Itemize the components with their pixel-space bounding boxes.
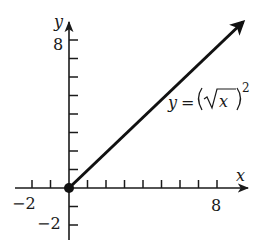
right-paren (237, 88, 241, 110)
y-axis-ticks (69, 40, 78, 225)
start-point-marker (64, 183, 74, 193)
y-tick-label-neg2: −2 (37, 214, 61, 233)
curve-line (69, 22, 243, 188)
graph-figure: x y −2 8 8 −2 y = x 2 (0, 0, 265, 250)
x-axis-label: x (236, 166, 245, 185)
equation-label: y = x 2 (167, 81, 250, 112)
x-axis-ticks (32, 180, 217, 188)
left-paren (199, 88, 203, 110)
y-tick-label-8: 8 (53, 35, 63, 54)
y-axis-label: y (53, 12, 64, 31)
x-tick-label-8: 8 (211, 196, 221, 215)
x-tick-label-neg2: −2 (12, 194, 36, 213)
svg-text:y: y (167, 93, 178, 112)
y-axis (69, 22, 78, 240)
svg-text:2: 2 (242, 81, 250, 95)
svg-text:=: = (181, 93, 194, 112)
svg-text:x: x (219, 92, 228, 111)
x-axis (15, 180, 248, 188)
